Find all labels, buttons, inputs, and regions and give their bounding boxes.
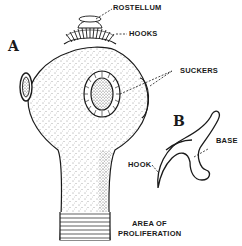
label-base: BASE — [216, 136, 238, 145]
hooks-crown — [64, 27, 116, 44]
label-rostellum: ROSTELLUM — [113, 3, 161, 12]
proliferation-area — [60, 212, 110, 240]
label-area-line1: AREA OF — [132, 219, 167, 228]
rostellum — [78, 16, 102, 28]
label-suckers: SUCKERS — [180, 66, 218, 75]
hook-detail — [158, 111, 220, 188]
label-hooks: HOOKS — [129, 29, 158, 38]
sucker-front — [84, 71, 120, 117]
panel-label-a: A — [8, 38, 19, 54]
scolex-body — [28, 47, 148, 240]
label-area-line2: PROLIFERATION — [118, 229, 181, 238]
panel-label-b: B — [173, 113, 185, 129]
sucker-left — [20, 73, 32, 101]
label-hook: HOOK — [128, 160, 151, 169]
scolex-diagram — [0, 0, 242, 246]
